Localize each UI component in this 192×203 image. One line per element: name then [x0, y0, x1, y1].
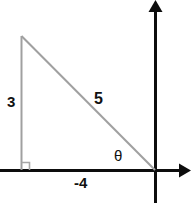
x-axis-arrow-icon — [179, 164, 191, 178]
right-angle-marker-icon — [22, 163, 30, 171]
theta-angle-label: θ — [114, 148, 122, 163]
hypotenuse-label: 5 — [94, 91, 103, 107]
geometry-figure: 3 5 -4 θ — [0, 0, 192, 203]
vertical-leg-label: 3 — [7, 94, 15, 109]
triangle-hypotenuse — [22, 36, 156, 170]
horizontal-leg-label: -4 — [74, 175, 87, 190]
y-axis-arrow-icon — [149, 0, 163, 12]
